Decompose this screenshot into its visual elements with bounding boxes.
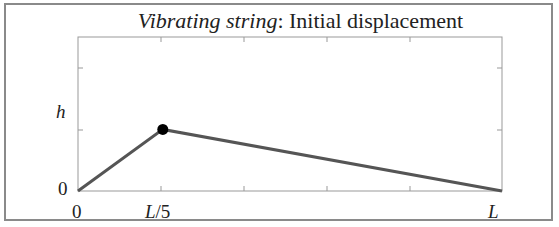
displacement-line xyxy=(78,129,502,191)
x-tick-label-L5: L/5 xyxy=(145,201,170,223)
peak-marker xyxy=(157,124,168,135)
x-tick-label-L: L xyxy=(488,201,499,223)
axes-box xyxy=(78,37,502,191)
y-tick-label-h: h xyxy=(56,101,66,123)
x-tick-label-0: 0 xyxy=(72,201,82,223)
y-tick-label-0: 0 xyxy=(58,178,68,200)
plot-area xyxy=(0,0,559,227)
y-ticks xyxy=(78,68,502,130)
